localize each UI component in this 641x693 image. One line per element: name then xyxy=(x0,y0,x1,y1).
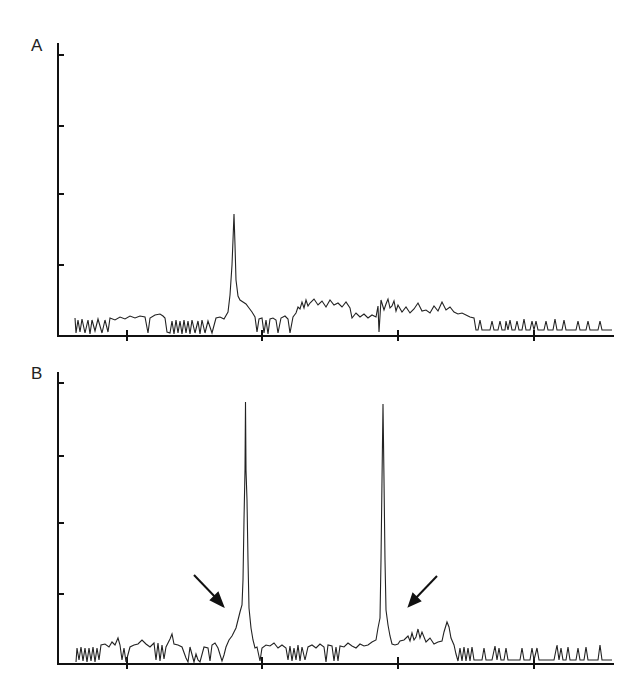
panel-b-axes xyxy=(57,372,614,669)
chart-canvas xyxy=(0,0,641,693)
arrow-left-peak xyxy=(194,575,223,606)
panel-a-trace xyxy=(75,214,612,334)
arrow-right-peak xyxy=(409,576,437,606)
panel-b-trace xyxy=(76,402,612,662)
panel-a-axes xyxy=(57,43,614,341)
